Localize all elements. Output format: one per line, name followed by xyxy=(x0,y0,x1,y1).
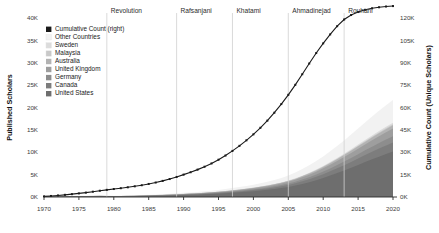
cumulative-marker xyxy=(245,139,247,141)
x-axis-tick-label: 1985 xyxy=(142,205,156,212)
x-axis-tick-label: 1980 xyxy=(107,205,121,212)
chart-container: 1970197519801985199019952000200520102015… xyxy=(0,0,439,233)
cumulative-marker xyxy=(85,192,87,194)
cumulative-marker xyxy=(287,94,289,96)
y2-axis-tick-label: 45K xyxy=(400,126,412,133)
y-axis-tick-label: 15K xyxy=(27,126,39,133)
legend-swatch xyxy=(46,91,51,96)
y-axis-tick-label: 30K xyxy=(27,59,39,66)
era-label: Rafsanjani xyxy=(181,7,213,15)
cumulative-marker xyxy=(336,25,338,27)
cumulative-marker xyxy=(120,187,122,189)
legend-label: Germany xyxy=(55,73,82,81)
cumulative-marker xyxy=(92,191,94,193)
legend-label: Cumulative Count (right) xyxy=(55,25,124,33)
cumulative-marker xyxy=(148,183,150,185)
cumulative-marker xyxy=(218,159,220,161)
x-axis-tick-label: 2005 xyxy=(281,205,295,212)
legend-swatch xyxy=(46,51,51,56)
x-axis-tick-label: 1990 xyxy=(177,205,191,212)
stacked-area-chart: 1970197519801985199019952000200520102015… xyxy=(0,0,439,233)
cumulative-marker xyxy=(113,188,115,190)
legend-label: Malaysia xyxy=(55,49,81,57)
x-axis-tick-label: 1995 xyxy=(212,205,226,212)
legend-label: Other Countries xyxy=(55,33,100,40)
cumulative-marker xyxy=(71,193,73,195)
cumulative-marker xyxy=(190,171,192,173)
cumulative-marker xyxy=(238,145,240,147)
cumulative-marker xyxy=(155,182,157,184)
y-axis-tick-label: 5K xyxy=(30,171,38,178)
legend-swatch xyxy=(46,27,51,32)
x-axis-tick-label: 2010 xyxy=(316,205,330,212)
x-axis-tick-label: 1975 xyxy=(72,205,86,212)
cumulative-marker xyxy=(134,185,136,187)
legend-label: Sweden xyxy=(55,41,79,48)
cumulative-marker xyxy=(64,194,66,196)
cumulative-marker xyxy=(294,84,296,86)
y-axis-title: Published Scholars xyxy=(5,74,14,141)
y2-axis-tick-label: 0K xyxy=(400,193,408,200)
cumulative-marker xyxy=(315,52,317,54)
cumulative-marker xyxy=(350,14,352,16)
cumulative-marker xyxy=(57,194,59,196)
cumulative-marker xyxy=(322,42,324,44)
y-axis-tick-label: 20K xyxy=(27,104,39,111)
era-label: Revolution xyxy=(111,7,142,14)
cumulative-marker xyxy=(106,189,108,191)
era-label: Khatami xyxy=(236,7,261,14)
cumulative-marker xyxy=(204,166,206,168)
legend-label: Australia xyxy=(55,57,80,64)
y2-axis-tick-label: 75K xyxy=(400,81,412,88)
cumulative-marker xyxy=(252,133,254,135)
x-axis-tick-label: 2020 xyxy=(386,205,400,212)
x-axis-tick-label: 2000 xyxy=(247,205,261,212)
cumulative-marker xyxy=(162,180,164,182)
cumulative-marker xyxy=(224,155,226,157)
cumulative-marker xyxy=(301,73,303,75)
cumulative-marker xyxy=(273,112,275,114)
y2-axis-tick-label: 105K xyxy=(400,37,415,44)
y-axis-tick-label: 10K xyxy=(27,148,39,155)
cumulative-marker xyxy=(343,18,345,20)
legend-swatch xyxy=(46,43,51,48)
y2-axis-tick-label: 90K xyxy=(400,59,412,66)
y2-axis-title: Cumulative Count (Unique Scholars) xyxy=(424,44,433,170)
legend-swatch xyxy=(46,35,51,40)
cumulative-marker xyxy=(127,186,129,188)
cumulative-marker xyxy=(141,184,143,186)
y2-axis-tick-label: 60K xyxy=(400,104,412,111)
y-axis-tick-label: 35K xyxy=(27,37,39,44)
cumulative-marker xyxy=(259,127,261,129)
y2-axis-tick-label: 120K xyxy=(400,14,415,21)
y2-axis-tick-label: 30K xyxy=(400,148,412,155)
legend-label: United States xyxy=(55,89,93,96)
cumulative-marker xyxy=(197,169,199,171)
cumulative-marker xyxy=(392,5,394,7)
y-axis-tick-label: 0K xyxy=(30,193,38,200)
x-axis-tick-label: 2015 xyxy=(351,205,365,212)
legend-label: United Kingdom xyxy=(55,65,100,73)
cumulative-marker xyxy=(211,162,213,164)
era-label: Rouhani xyxy=(348,7,373,14)
y-axis-tick-label: 40K xyxy=(27,14,39,21)
legend-swatch xyxy=(46,67,51,72)
cumulative-marker xyxy=(378,6,380,8)
cumulative-marker xyxy=(280,103,282,105)
legend-swatch xyxy=(46,59,51,64)
cumulative-marker xyxy=(385,6,387,8)
x-axis-tick-label: 1970 xyxy=(37,205,51,212)
cumulative-marker xyxy=(231,150,233,152)
cumulative-marker xyxy=(169,178,171,180)
cumulative-marker xyxy=(266,120,268,122)
cumulative-marker xyxy=(78,192,80,194)
era-label: Ahmadinejad xyxy=(292,7,331,15)
cumulative-marker xyxy=(308,63,310,65)
cumulative-marker xyxy=(329,33,331,35)
cumulative-marker xyxy=(99,190,101,192)
cumulative-marker xyxy=(176,176,178,178)
legend-label: Canada xyxy=(55,81,78,88)
y2-axis-tick-label: 15K xyxy=(400,171,412,178)
cumulative-marker xyxy=(183,174,185,176)
legend-swatch xyxy=(46,75,51,80)
